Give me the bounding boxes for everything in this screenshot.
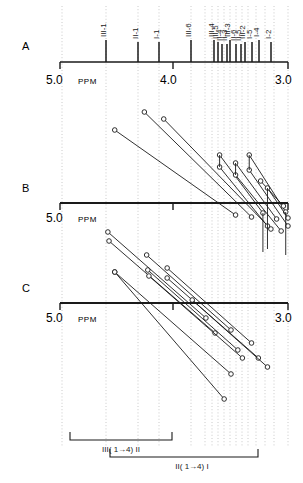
axis-c-unit-label: PPM <box>78 315 97 324</box>
data-point-marker <box>204 316 209 321</box>
bracket-ii-4-i-label: II( 1→4) I <box>175 462 208 471</box>
correlation-trace <box>149 276 242 358</box>
data-point-marker <box>106 230 111 235</box>
data-point-marker <box>249 215 254 220</box>
data-point-marker <box>229 372 234 377</box>
axis-a-right-label: 3.0 <box>275 73 292 87</box>
correlation-trace <box>147 255 231 330</box>
panel-b-trace-group <box>112 110 290 255</box>
axis-c-left-label: 5.0 <box>46 311 63 325</box>
data-point-marker <box>281 204 286 209</box>
data-point-marker <box>161 117 166 122</box>
data-point-marker <box>286 224 291 229</box>
data-point-marker <box>222 397 227 402</box>
peak-label: II-1 <box>131 27 140 39</box>
panel-a: A III-1II-1I-1III-6III-4III-5II-4II-3III… <box>22 23 292 87</box>
panel-c-letter: C <box>22 282 30 294</box>
peak-label: I-1 <box>152 29 161 39</box>
data-point-marker <box>265 365 270 370</box>
data-point-marker <box>274 217 279 222</box>
data-point-marker <box>165 266 170 271</box>
data-point-marker <box>112 270 117 275</box>
panel-a-peak-group <box>106 40 271 62</box>
correlation-trace <box>115 272 231 374</box>
peak-label: III-6 <box>184 23 193 37</box>
panel-b-letter: B <box>22 182 29 194</box>
gridline-group <box>62 6 288 446</box>
data-point-marker <box>190 298 195 303</box>
panel-c: C 5.0 PPM 3.0 <box>22 230 292 402</box>
data-point-marker <box>107 239 112 244</box>
data-point-marker <box>112 128 117 133</box>
peak-label: I-4 <box>252 27 261 37</box>
correlation-trace <box>167 268 251 343</box>
bracket-iii-4-ii <box>70 432 172 440</box>
data-point-marker <box>236 348 241 353</box>
correlation-trace <box>220 155 263 213</box>
data-point-marker <box>286 216 291 221</box>
correlation-trace <box>115 272 224 399</box>
axis-b-left-label: 5.0 <box>46 211 63 225</box>
axis-a-left-label: 5.0 <box>46 73 63 87</box>
axis-a-unit-label: PPM <box>78 77 97 86</box>
data-point-marker <box>240 356 245 361</box>
peak-label: III-1 <box>99 23 108 37</box>
axis-a-mid-label: 4.0 <box>160 73 177 87</box>
data-point-marker <box>258 179 263 184</box>
bracket-group: III( 1→4) IIII( 1→4) I <box>70 432 258 471</box>
data-point-marker <box>279 229 284 234</box>
panel-c-trace-group <box>106 230 270 402</box>
correlation-trace <box>236 163 277 219</box>
data-point-marker <box>144 253 149 258</box>
correlation-trace <box>249 170 288 226</box>
panel-a-label-group: III-1II-1I-1III-6III-4III-5II-4II-3III-3… <box>99 23 273 41</box>
nmr-figure: A III-1II-1I-1III-6III-4III-5II-4II-3III… <box>0 0 303 483</box>
data-point-marker <box>165 276 170 281</box>
data-point-marker <box>233 213 238 218</box>
bracket-iii-4-ii-label: III( 1→4) II <box>102 445 140 454</box>
correlation-trace <box>164 119 271 229</box>
data-point-marker <box>142 110 147 115</box>
data-point-marker <box>145 268 150 273</box>
data-point-marker <box>147 274 152 279</box>
axis-b-unit-label: PPM <box>78 215 97 224</box>
data-point-marker <box>229 328 234 333</box>
data-point-marker <box>249 341 254 346</box>
axis-c-right-label: 3.0 <box>275 311 292 325</box>
panel-a-letter: A <box>22 40 30 52</box>
peak-label: I-2 <box>264 29 273 39</box>
